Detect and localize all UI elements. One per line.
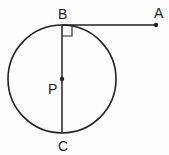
label-b: B [58,6,67,22]
point-p-dot [60,77,64,81]
point-a-dot [154,23,158,27]
diagram-svg: B A P C [0,0,169,155]
geometry-diagram: B A P C [0,0,169,155]
right-angle-marker [62,25,72,36]
label-p: P [48,81,57,97]
label-a: A [154,5,164,21]
label-c: C [58,138,68,154]
